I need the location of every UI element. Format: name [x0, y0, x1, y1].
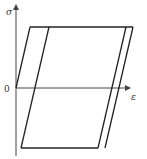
hysteresis-diagram: σ ε 0 — [0, 0, 147, 159]
x-axis-label: ε — [131, 92, 136, 102]
y-axis-label: σ — [6, 7, 13, 17]
origin-label: 0 — [4, 84, 10, 94]
initial-loading-line — [16, 27, 30, 88]
